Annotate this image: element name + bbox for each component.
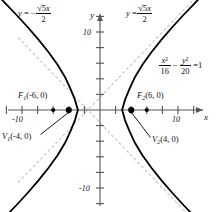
equation-term-2-exponent: 2 [186,56,189,62]
vertex-1-leader-line [41,113,69,135]
vertex-1-label: V1(-4, 0) [2,132,31,142]
focus-2-label: F2(6, 0) [137,91,164,101]
vertex-2-leader-line [132,113,151,138]
focus-1-label-coords: (-6, 0) [26,90,47,100]
asymptote-right-numerator: √5x [137,4,153,14]
vertex-2-label-coords: (4, 0) [160,134,178,144]
asymptote-left-label: y = − √5x 2 [18,4,51,23]
asymptote-left-numerator-var: x [46,3,50,13]
asymptote-left-radical: √5 [37,3,46,13]
x-tick-label-pos10: 10 [172,116,180,124]
hyperbola-equation-label: x2 16 − y2 20 =1 [159,56,202,75]
y-axis-arrow [97,14,103,21]
focus-1-label: F1(-6, 0) [18,91,47,101]
y-axis-label: y [90,11,94,20]
asymptote-right-radical: √5 [138,3,147,13]
asymptote-right-label: y = √5x 2 [126,4,152,23]
focus-2-dot [145,108,149,112]
x-tick-label-neg10: -10 [12,116,23,124]
vertex-1-dot [66,107,72,113]
equation-term-1-denominator: 16 [159,66,171,75]
asymptote-left-equals: = [24,8,29,18]
equation-term-2-denominator: 20 [180,66,192,75]
y-tick-label-neg10: -10 [79,185,90,193]
asymptote-right-numerator-var: x [147,3,151,13]
equation-term-2-numerator: y2 [180,56,192,66]
equation-term-1: x2 16 [159,56,171,75]
vertex-1-label-coords: (-4, 0) [10,131,31,141]
equation-operator: − [173,60,178,70]
asymptote-left-numerator: √5x [36,4,52,14]
equation-term-1-exponent: 2 [165,56,168,62]
vertex-2-label: V2(4, 0) [152,135,179,145]
hyperbola-figure: y = − √5x 2 y = √5x 2 x2 16 − y2 20 =1 x… [0,0,218,212]
x-axis-label: x [204,113,208,122]
equation-term-2: y2 20 [180,56,192,75]
focus-2-label-coords: (6, 0) [145,90,163,100]
asymptote-right-denominator: 2 [137,14,153,23]
y-tick-label-pos10: 10 [83,29,91,37]
focus-1-dot [51,108,55,112]
equation-rhs: 1 [198,60,202,70]
asymptote-left-lhs: y [18,8,22,18]
asymptote-left-denominator: 2 [36,14,52,23]
asymptote-lines [18,0,200,212]
asymptote-right-fraction: √5x 2 [137,4,153,23]
leader-lines [41,113,151,138]
asymptote-right-lhs: y [126,8,130,18]
asymptote-left-fraction: √5x 2 [36,4,52,23]
equation-term-1-numerator: x2 [159,56,171,66]
left-branch-curve [0,0,78,212]
vertex-2-dot [128,107,134,113]
x-axis-arrow [196,107,203,113]
graph-canvas [0,0,218,212]
